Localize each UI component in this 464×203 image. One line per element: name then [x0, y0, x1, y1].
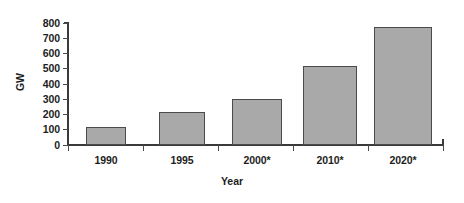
plot-area	[68, 23, 443, 145]
y-axis-tick-label: 200	[28, 109, 60, 119]
y-axis-tick-label-wrap: 200	[26, 109, 60, 119]
x-axis-tick	[143, 145, 144, 151]
x-axis-tick	[68, 145, 69, 151]
y-axis-tick-label: 500	[28, 63, 60, 73]
y-axis-tick-label: 600	[28, 48, 60, 58]
y-axis-tick-label-wrap: 400	[26, 79, 60, 89]
y-axis-tick-label: 0	[28, 140, 60, 150]
y-axis-title: GW	[14, 56, 26, 108]
y-axis-tick-label-wrap: 100	[26, 124, 60, 134]
y-axis-tick-label: 700	[28, 33, 60, 43]
bar	[374, 27, 432, 145]
y-axis-tick-label: 400	[28, 79, 60, 89]
bar	[86, 127, 126, 145]
x-axis-label: 2020*	[373, 154, 433, 166]
bar	[303, 66, 357, 145]
x-axis-tick	[443, 145, 444, 151]
y-axis-tick-label-wrap: 600	[26, 48, 60, 58]
x-axis-tick	[218, 145, 219, 151]
chart-screenshot: GW 0100200300400500600700800 19901995200…	[0, 0, 464, 203]
y-axis-tick-label: 800	[28, 18, 60, 28]
y-axis-tick-label-wrap: 700	[26, 33, 60, 43]
x-axis-tick	[368, 145, 369, 151]
x-axis-tick	[293, 145, 294, 151]
y-axis-tick-label-wrap: 800	[26, 18, 60, 28]
x-axis-label: 2000*	[227, 154, 287, 166]
x-axis-label: 2010*	[300, 154, 360, 166]
x-axis-label: 1995	[152, 154, 212, 166]
y-axis-tick-label: 100	[28, 124, 60, 134]
y-axis-tick-label-wrap: 500	[26, 63, 60, 73]
bar	[232, 99, 282, 145]
bar-chart: GW 0100200300400500600700800 19901995200…	[0, 0, 464, 203]
x-axis-title: Year	[190, 175, 274, 187]
y-axis-tick-label-wrap: 0	[26, 140, 60, 150]
bar	[159, 112, 205, 145]
x-axis-label: 1990	[76, 154, 136, 166]
y-axis-tick-label: 300	[28, 94, 60, 104]
y-axis-tick-label-wrap: 300	[26, 94, 60, 104]
